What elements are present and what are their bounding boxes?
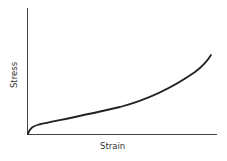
stress-strain-chart: Stress Strain xyxy=(0,0,227,161)
chart-plot-area xyxy=(0,0,227,161)
stress-strain-curve xyxy=(28,55,211,134)
y-axis-label: Stress xyxy=(2,55,26,95)
y-axis-label-text: Stress xyxy=(9,62,19,88)
x-axis-label: Strain xyxy=(100,141,125,151)
